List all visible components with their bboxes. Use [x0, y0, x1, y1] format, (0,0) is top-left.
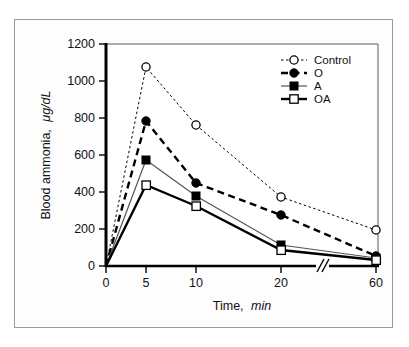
legend-marker-open-circle-icon: [290, 56, 298, 64]
legend-marker-open-square-icon: [290, 95, 298, 103]
y-tick-label-0: 0: [88, 259, 95, 273]
series-a-point: [192, 192, 200, 200]
y-tick-label-1200: 1200: [67, 37, 95, 51]
series-control-point: [277, 193, 285, 201]
series-o-point: [142, 117, 150, 125]
x-tick-label-60: 60: [369, 276, 383, 290]
chart-canvas: 0 200 400 600 800 1000 1200 0 5 10 20 60: [0, 0, 409, 347]
series-control-point: [142, 63, 150, 71]
y-axis-title-unit: μg/dL: [39, 90, 53, 122]
y-axis-title-plain: Blood ammonia,: [39, 129, 53, 219]
legend-label-a: A: [314, 80, 322, 92]
y-tick-label-800: 800: [74, 111, 95, 125]
series-oa-point: [192, 202, 200, 210]
legend-label-o: O: [314, 67, 323, 79]
y-tick-label-400: 400: [74, 185, 95, 199]
y-axis-title: Blood ammonia, μg/dL: [39, 90, 53, 219]
y-tick-label-200: 200: [74, 222, 95, 236]
y-tick-label-600: 600: [74, 148, 95, 162]
x-axis-title-unit: min: [251, 299, 271, 313]
y-axis-tick-labels: 0 200 400 600 800 1000 1200: [67, 37, 95, 273]
y-tick-label-1000: 1000: [67, 74, 95, 88]
x-tick-label-20: 20: [274, 276, 288, 290]
series-control-point: [372, 226, 380, 234]
x-tick-label-5: 5: [143, 276, 150, 290]
x-axis-title: Time, min: [213, 299, 271, 313]
figure-container: 0 200 400 600 800 1000 1200 0 5 10 20 60: [0, 0, 409, 347]
legend-label-oa: OA: [314, 93, 331, 105]
plot-area-background: [106, 44, 378, 266]
series-oa-point: [277, 246, 285, 254]
x-tick-label-10: 10: [189, 276, 203, 290]
x-axis-title-plain: Time,: [213, 299, 244, 313]
series-control-point: [192, 121, 200, 129]
series-o-point: [277, 211, 285, 219]
series-oa-point: [142, 181, 150, 189]
series-a-point: [142, 156, 150, 164]
legend-label-control: Control: [314, 54, 351, 66]
legend-marker-filled-circle-icon: [290, 69, 298, 77]
series-oa-point: [372, 256, 380, 264]
legend-marker-filled-square-icon: [290, 82, 298, 90]
series-o-point: [192, 179, 200, 187]
x-tick-label-0: 0: [103, 276, 110, 290]
x-axis-tick-labels: 0 5 10 20 60: [103, 276, 383, 290]
